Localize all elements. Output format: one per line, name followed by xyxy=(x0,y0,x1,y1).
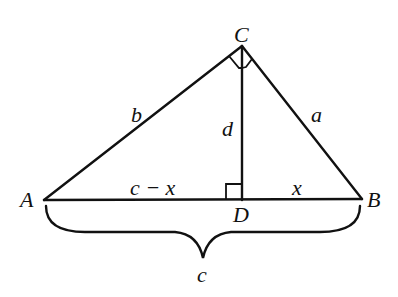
right-angle-marker-C-right xyxy=(242,59,252,68)
side-label-d: d xyxy=(222,116,234,141)
brace-c xyxy=(46,206,360,258)
side-c-AB xyxy=(44,199,362,200)
right-angle-marker-C-left xyxy=(229,56,242,68)
side-label-c-minus-x: c − x xyxy=(130,175,176,200)
side-label-b: b xyxy=(131,102,142,127)
side-a-CB xyxy=(242,46,362,199)
right-angle-marker-D xyxy=(226,184,242,200)
vertex-label-D: D xyxy=(232,202,249,227)
vertex-label-B: B xyxy=(367,187,380,212)
side-label-c: c xyxy=(197,262,207,287)
triangle-diagram: C A B D b a d c − x x c xyxy=(0,0,398,297)
side-label-x: x xyxy=(291,175,302,200)
vertex-label-C: C xyxy=(234,22,249,47)
vertex-label-A: A xyxy=(18,187,34,212)
side-label-a: a xyxy=(311,102,322,127)
diagram-canvas: C A B D b a d c − x x c xyxy=(0,0,398,297)
